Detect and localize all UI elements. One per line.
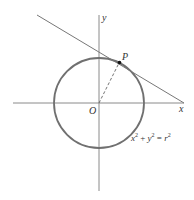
eq-equals: = xyxy=(155,133,165,143)
point-label: P xyxy=(121,51,128,62)
origin-label: O xyxy=(89,105,96,116)
x-axis-label: x xyxy=(178,103,184,114)
eq-plus: + xyxy=(138,133,148,143)
eq-r-exp: 2 xyxy=(168,132,171,138)
radius-dashed-line xyxy=(99,63,119,103)
y-axis-label: y xyxy=(101,12,107,23)
tangent-line xyxy=(37,15,184,103)
point-p xyxy=(118,61,122,65)
diagram-canvas: y x O P x2 + y2 = r2 xyxy=(0,0,194,200)
circle-equation: x2 + y2 = r2 xyxy=(130,132,171,143)
